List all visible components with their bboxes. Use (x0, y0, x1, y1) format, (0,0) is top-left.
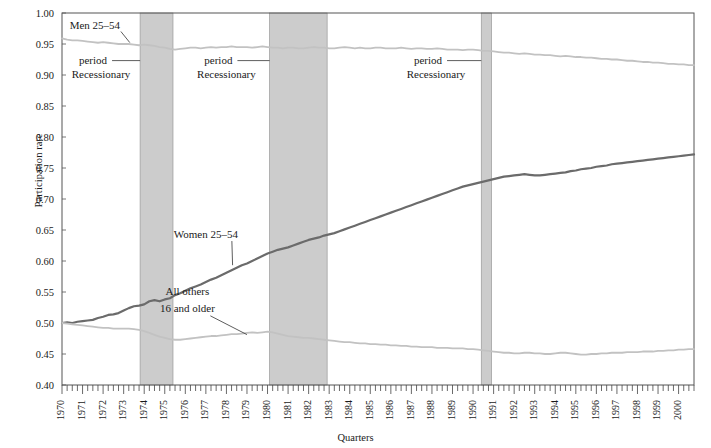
x-tick-label: 1981 (282, 400, 293, 420)
x-tick-label: 1992 (508, 400, 519, 420)
y-tick-label: 0.50 (36, 318, 54, 329)
x-tick-label: 1972 (97, 400, 108, 420)
y-tick-label: 0.45 (36, 349, 54, 360)
y-axis-title: Participation rate (33, 111, 44, 231)
recession-label-line1-1: Recessionary (72, 68, 131, 80)
recession-label-line2-3: period (414, 54, 443, 66)
y-tick-label: 0.95 (36, 39, 54, 50)
x-tick-label: 1996 (590, 400, 601, 420)
x-tick-label: 1987 (405, 400, 416, 420)
series-label: Women 25–54 (174, 228, 239, 240)
x-tick-label: 1983 (323, 400, 334, 420)
x-tick-label: 1989 (446, 400, 457, 420)
y-tick-label: 1.00 (36, 8, 54, 19)
x-tick-label: 1976 (179, 400, 190, 420)
recession-label-line2-2: period (204, 54, 233, 66)
series-label-line1: All others (166, 285, 210, 297)
series-label: Men 25–54 (70, 19, 121, 31)
series-leader-line (210, 316, 247, 335)
recession-band-2 (270, 13, 328, 385)
x-tick-label: 1985 (364, 400, 375, 420)
series-label-line2: 16 and older (160, 302, 215, 314)
x-tick-label: 1995 (569, 400, 580, 420)
x-tick-label: 1970 (55, 400, 66, 420)
x-axis-title: Quarters (0, 432, 711, 443)
x-tick-label: 1980 (261, 400, 272, 420)
x-tick-label: 1973 (117, 400, 128, 420)
chart-canvas: 0.400.450.500.550.600.650.700.750.800.85… (0, 0, 711, 448)
y-tick-label: 0.60 (36, 256, 54, 267)
series-leader-line (121, 32, 130, 43)
x-tick-label: 1977 (199, 400, 210, 420)
y-tick-label: 0.55 (36, 287, 54, 298)
participation-rate-chart: 0.400.450.500.550.600.650.700.750.800.85… (0, 0, 711, 448)
recession-label-line2-1: period (79, 54, 108, 66)
x-tick-label: 1984 (343, 400, 354, 420)
x-tick-label: 1999 (651, 400, 662, 420)
x-tick-label: 1971 (76, 400, 87, 420)
recession-label-line1-3: Recessionary (407, 68, 466, 80)
y-tick-label: 0.90 (36, 70, 54, 81)
recession-label-line1-2: Recessionary (197, 68, 256, 80)
recession-band-1 (140, 13, 173, 385)
x-tick-label: 1993 (528, 400, 539, 420)
y-tick-label: 0.40 (36, 380, 54, 391)
x-tick-label: 1997 (610, 400, 621, 420)
x-tick-label: 1986 (384, 400, 395, 420)
x-tick-label: 1978 (220, 400, 231, 420)
x-tick-label: 1982 (302, 400, 313, 420)
x-tick-label: 1998 (631, 400, 642, 420)
x-tick-label: 1988 (425, 400, 436, 420)
x-tick-label: 1990 (467, 400, 478, 420)
series-leader-line (232, 241, 233, 265)
x-tick-label: 1991 (487, 400, 498, 420)
recession-band-3 (481, 13, 491, 385)
x-tick-label: 1994 (549, 400, 560, 420)
x-tick-label: 1975 (158, 400, 169, 420)
x-tick-label: 2000 (672, 400, 683, 420)
x-tick-label: 1974 (138, 400, 149, 420)
x-tick-label: 1979 (240, 400, 251, 420)
